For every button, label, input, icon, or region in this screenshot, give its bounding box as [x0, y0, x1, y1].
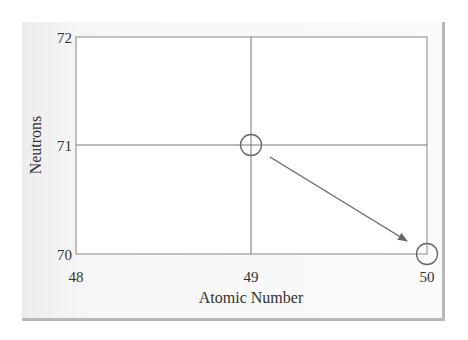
- x-tick-50: 50: [420, 269, 435, 285]
- chart: 72 71 70 48 49 50 Atomic Number Neutrons: [0, 0, 468, 340]
- y-tick-71: 71: [57, 138, 72, 154]
- y-tick-72: 72: [57, 30, 72, 46]
- x-tick-49: 49: [244, 269, 259, 285]
- y-tick-70: 70: [57, 247, 72, 263]
- y-axis-label: Neutrons: [27, 116, 44, 175]
- x-axis-label: Atomic Number: [199, 289, 304, 306]
- x-tick-48: 48: [69, 269, 84, 285]
